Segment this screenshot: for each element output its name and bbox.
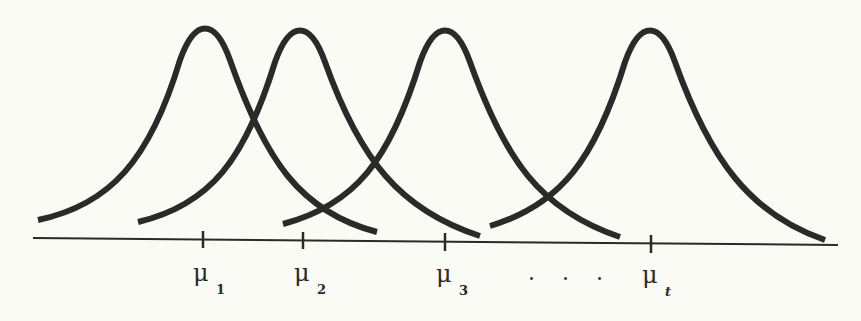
label-mu-t: μ t	[642, 261, 671, 299]
x-axis	[33, 238, 838, 245]
label-mu-3: μ 3	[436, 260, 468, 298]
svg-text:μ: μ	[294, 259, 310, 287]
normal-curves-diagram: μ 1 μ 2 μ 3 . . . μ t	[0, 0, 861, 321]
normal-curve-2	[138, 31, 480, 237]
label-mu-1: μ 1	[193, 259, 225, 297]
label-mu-2: μ 2	[294, 259, 326, 297]
svg-text:3: 3	[459, 283, 468, 298]
ellipsis: . . .	[528, 260, 613, 285]
svg-text:μ: μ	[436, 260, 452, 288]
normal-curve-3	[283, 31, 620, 238]
svg-text:μ: μ	[642, 261, 658, 289]
normal-curve-4	[490, 31, 825, 241]
svg-text:μ: μ	[193, 259, 209, 287]
svg-text:2: 2	[317, 282, 326, 297]
svg-text:1: 1	[216, 282, 225, 297]
svg-text:t: t	[665, 284, 671, 299]
